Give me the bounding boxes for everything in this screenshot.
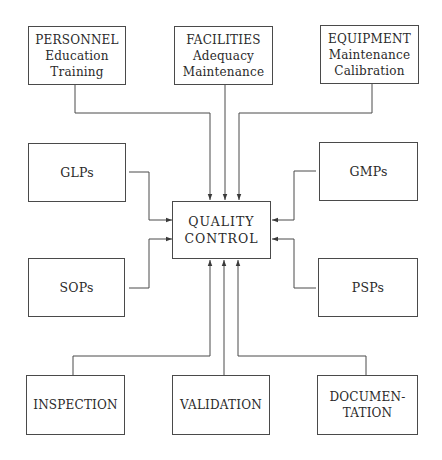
facilities-line-2: Adequacy (193, 48, 254, 64)
edge-psps (272, 239, 316, 288)
gmps-box: GMPs (319, 142, 418, 201)
edge-sops (129, 239, 172, 288)
gmps-label: GMPs (349, 164, 387, 180)
validation-box: VALIDATION (172, 375, 270, 435)
equipment-line-3: Calibration (334, 63, 404, 79)
psps-label: PSPs (352, 280, 384, 296)
psps-box: PSPs (318, 258, 418, 317)
validation-label: VALIDATION (180, 397, 262, 413)
equipment-title: EQUIPMENT (328, 31, 411, 47)
equipment-box: EQUIPMENT Maintenance Calibration (320, 25, 419, 84)
facilities-box: FACILITIES Adequacy Maintenance (174, 26, 273, 85)
personnel-box: PERSONNEL Education Training (28, 26, 126, 85)
documentation-line-1: DOCUMEN- (330, 389, 406, 405)
facilities-title: FACILITIES (186, 32, 260, 48)
facilities-line-3: Maintenance (183, 64, 265, 80)
edge-glps (129, 172, 172, 220)
sops-box: SOPs (28, 258, 125, 317)
quality-control-box: QUALITY CONTROL (172, 201, 271, 259)
personnel-title: PERSONNEL (35, 32, 118, 48)
equipment-line-2: Maintenance (329, 47, 411, 63)
glps-box: GLPs (28, 143, 126, 202)
quality-control-line-1: QUALITY (188, 213, 254, 230)
documentation-box: DOCUMEN- TATION (317, 375, 418, 435)
quality-control-line-2: CONTROL (184, 230, 258, 247)
inspection-box: INSPECTION (26, 375, 125, 435)
personnel-line-3: Training (50, 64, 103, 80)
personnel-line-2: Education (45, 48, 108, 64)
inspection-label: INSPECTION (33, 397, 118, 413)
glps-label: GLPs (60, 165, 94, 181)
sops-label: SOPs (59, 280, 93, 296)
documentation-line-2: TATION (343, 405, 393, 421)
edge-gmps (272, 171, 316, 220)
